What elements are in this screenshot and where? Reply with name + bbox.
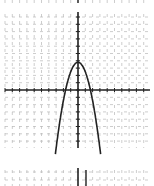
parabola-graph xyxy=(0,0,154,186)
partial-next-graph xyxy=(5,168,150,186)
partial-previous-graph xyxy=(5,0,144,3)
